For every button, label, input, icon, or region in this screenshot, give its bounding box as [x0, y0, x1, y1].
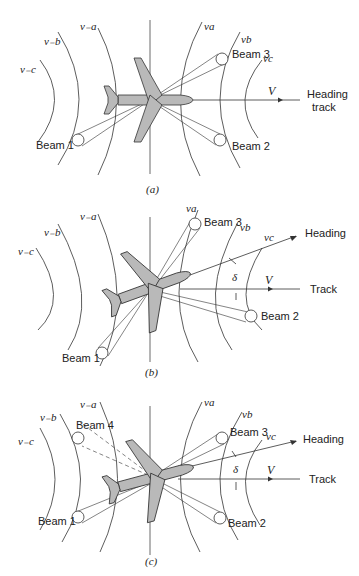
arc-nu-a: [179, 210, 198, 362]
nu-neg-c-label: ν₋c: [18, 435, 34, 447]
nu-neg-b-label: ν₋b: [40, 411, 57, 423]
beam1-label: Beam 1: [38, 515, 76, 527]
beam3-footprint: [189, 218, 201, 230]
beam2-line: [160, 296, 246, 322]
velocity-label: V: [268, 84, 277, 98]
beam3-footprint: [216, 53, 228, 65]
nu-neg-b-label: ν₋b: [44, 226, 61, 238]
heading-label: Heading: [305, 227, 346, 239]
beam2-line: [160, 486, 216, 523]
nu-a-label: νa: [186, 202, 197, 214]
caption-a: (a): [146, 183, 159, 196]
arc-nu-c: [245, 60, 262, 138]
beam3-label: Beam 3: [232, 48, 270, 60]
nu-neg-a-label: ν₋a: [80, 398, 97, 410]
beam3-label: Beam 3: [204, 216, 242, 228]
beam3-footprint: [216, 432, 228, 444]
drift-angle-label: δ: [232, 271, 238, 283]
caption-c: (c): [145, 555, 158, 568]
beam2-line: [160, 482, 220, 512]
beam2-footprint: [214, 134, 226, 146]
nu-neg-a-label: ν₋a: [80, 210, 97, 222]
airplane-icon: [104, 58, 193, 142]
panel-b: V Heading Track δ ν₋c ν₋b ν₋a νa νb νc B…: [18, 202, 346, 379]
panel-c: V Heading Track δ ν₋c ν₋b ν₋a νa νb νc B…: [18, 396, 344, 568]
beam2-label: Beam 2: [232, 140, 270, 152]
arc-nu-b: [215, 222, 238, 350]
arc-nu-a: [180, 402, 202, 552]
beam3-label: Beam 3: [230, 426, 268, 438]
caption-b: (b): [145, 366, 158, 379]
nu-a-label: νa: [204, 20, 215, 32]
nu-neg-b-label: ν₋b: [44, 35, 61, 47]
beam2-label: Beam 2: [228, 517, 266, 529]
nu-neg-a-label: ν₋a: [80, 20, 97, 32]
drift-arrow: [229, 258, 236, 264]
heading-label: Heading: [307, 88, 348, 100]
nu-a-label: νa: [204, 396, 215, 408]
arc-nu-neg-c: [36, 248, 54, 330]
beam1-label: Beam 1: [36, 139, 74, 151]
nu-c-label: νc: [264, 231, 274, 243]
nu-neg-c-label: ν₋c: [20, 63, 36, 75]
track-label: Track: [310, 283, 338, 295]
arc-nu-neg-c: [38, 60, 55, 142]
track-label: Track: [309, 473, 337, 485]
heading-label: Heading: [303, 433, 344, 445]
beam4-label: Beam 4: [76, 419, 114, 431]
beam4-footprint: [72, 432, 84, 444]
drift-angle-label: δ: [233, 463, 239, 475]
track-label: track: [312, 101, 336, 113]
heading-vector: [192, 441, 296, 466]
velocity-label: V: [265, 273, 274, 287]
nu-b-label: νb: [242, 408, 253, 420]
beam2-footprint: [214, 512, 226, 524]
airplane-icon: [92, 234, 204, 343]
panel-a: V Heading track ν₋c ν₋b ν₋a νa νb νc Bea…: [20, 20, 348, 196]
arc-nu-neg-b: [58, 224, 82, 350]
beam1-label: Beam 1: [62, 352, 100, 364]
nu-b-label: νb: [241, 33, 252, 45]
doppler-beam-diagram: V Heading track ν₋c ν₋b ν₋a νa νb νc Bea…: [0, 0, 359, 576]
velocity-label: V: [267, 463, 276, 477]
beam2-label: Beam 2: [261, 310, 299, 322]
beam2-footprint: [245, 310, 257, 322]
heading-vector: [190, 236, 296, 275]
nu-neg-c-label: ν₋c: [18, 245, 34, 257]
